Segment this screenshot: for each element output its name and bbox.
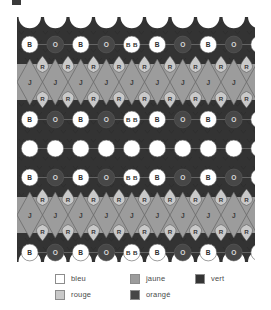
cell-label: R	[142, 95, 147, 102]
cell-label: J	[53, 212, 57, 219]
cell-label: R	[193, 196, 198, 203]
cell-label: B	[78, 249, 83, 256]
pattern-circle	[72, 140, 89, 157]
cell-label: O	[180, 174, 185, 181]
cell-label: B	[155, 41, 160, 48]
cell-label: R	[219, 95, 224, 102]
legend-swatch-vert	[195, 274, 205, 284]
cell-label: R	[66, 95, 71, 102]
texture-chevron	[223, 265, 228, 268]
pattern-circle	[21, 140, 38, 157]
texture-chevron	[163, 265, 168, 268]
cell-label: B	[133, 116, 138, 123]
texture-chevron	[211, 265, 216, 268]
cell-label: R	[66, 228, 71, 235]
legend-item-orange: orangé	[130, 288, 171, 301]
cell-label: B	[206, 41, 211, 48]
texture-chevron	[139, 13, 144, 16]
cell-label: R	[91, 228, 96, 235]
cell-label: O	[231, 174, 236, 181]
cell-label: O	[104, 174, 109, 181]
cell-label: R	[168, 63, 173, 70]
cell-label: R	[91, 196, 96, 203]
texture-chevron	[127, 265, 132, 268]
legend-column: jauneorangé	[130, 272, 171, 304]
cell-label: J	[104, 79, 108, 86]
texture-chevron	[235, 13, 240, 16]
legend-swatch-orange	[130, 290, 140, 300]
texture-chevron	[205, 22, 210, 25]
texture-chevron	[19, 265, 24, 268]
cell-label: B	[155, 249, 160, 256]
pattern-circle	[98, 140, 115, 157]
legend-label: orangé	[146, 291, 171, 299]
cell-label: J	[130, 212, 134, 219]
cell-label: J	[206, 79, 210, 86]
legend-label: jaune	[146, 275, 165, 283]
cell-label: B	[155, 116, 160, 123]
texture-chevron	[175, 13, 180, 16]
cell-label: R	[142, 63, 147, 70]
cell-label: O	[53, 249, 58, 256]
texture-chevron	[163, 13, 168, 16]
cell-label: B	[126, 249, 131, 256]
texture-chevron	[67, 265, 72, 268]
legend-swatch-jaune	[130, 274, 140, 284]
cell-label: R	[66, 196, 71, 203]
cell-label: R	[219, 196, 224, 203]
texture-chevron	[91, 265, 96, 268]
cell-label: J	[104, 212, 108, 219]
page-artifact-mark	[12, 0, 21, 5]
pattern-circle	[225, 140, 242, 157]
cell-label: B	[133, 249, 138, 256]
texture-chevron	[247, 265, 252, 268]
texture-chevron	[235, 265, 240, 268]
texture-chevron	[157, 22, 162, 25]
cell-label: R	[193, 228, 198, 235]
cell-label: J	[79, 212, 83, 219]
cell-label: J	[28, 79, 32, 86]
legend-item-vert: vert	[195, 272, 224, 285]
cell-label: O	[53, 41, 58, 48]
cell-label: O	[180, 116, 185, 123]
texture-chevron	[133, 22, 138, 25]
texture-chevron	[199, 265, 204, 268]
texture-chevron	[103, 265, 108, 268]
texture-chevron	[67, 13, 72, 16]
cell-label: R	[193, 95, 198, 102]
cell-label: R	[40, 196, 45, 203]
cell-label: B	[78, 41, 83, 48]
texture-chevron	[103, 13, 108, 16]
cell-label: B	[155, 174, 160, 181]
cell-label: O	[53, 116, 58, 123]
texture-chevron	[43, 265, 48, 268]
cell-label: R	[117, 63, 122, 70]
cell-label: O	[231, 41, 236, 48]
cell-label: R	[66, 63, 71, 70]
texture-chevron	[223, 13, 228, 16]
texture-chevron	[247, 13, 252, 16]
cell-label: J	[232, 212, 236, 219]
cell-label: B	[27, 249, 32, 256]
pattern-circle	[174, 140, 191, 157]
cell-label: R	[168, 95, 173, 102]
cell-label: J	[28, 212, 32, 219]
cell-label: B	[126, 116, 131, 123]
texture-chevron	[115, 13, 120, 16]
texture-chevron	[151, 13, 156, 16]
cell-label: R	[219, 63, 224, 70]
cell-label: B	[78, 174, 83, 181]
cell-label: B	[78, 116, 83, 123]
cell-label: O	[180, 249, 185, 256]
cell-label: R	[117, 95, 122, 102]
cell-label: R	[142, 196, 147, 203]
legend-item-rouge: rouge	[55, 288, 91, 301]
legend-label: vert	[211, 275, 224, 283]
cell-label: B	[206, 174, 211, 181]
cell-label: R	[193, 63, 198, 70]
cell-label: J	[155, 212, 159, 219]
cell-label: J	[181, 79, 185, 86]
tessellation-canvas: BOBOBBBOBOBJJJJJJJJJJRRRRRRRRRRRRRRRRRRR…	[17, 11, 255, 268]
cell-label: O	[104, 41, 109, 48]
texture-chevron	[253, 22, 255, 25]
